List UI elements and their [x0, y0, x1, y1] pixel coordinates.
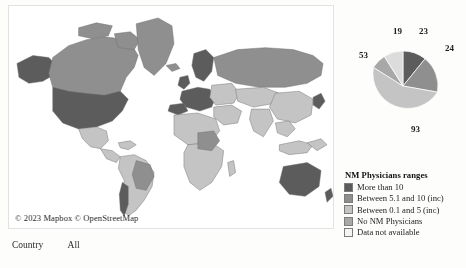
country-australia[interactable]: [279, 163, 321, 197]
region-sub-saharan-africa[interactable]: [184, 143, 224, 191]
pie-label-more-than-10: 23: [419, 26, 428, 36]
map-attribution: © 2023 Mapbox © OpenStreetMap: [15, 213, 138, 223]
pie-label-between-0-1-and-5: 93: [411, 124, 420, 134]
country-baffin-island[interactable]: [114, 32, 140, 50]
country-filter-label: Country: [12, 240, 43, 250]
country-india[interactable]: [250, 109, 274, 137]
legend-swatch-between-5-1-and-10: [344, 194, 353, 203]
pie-label-between-5-1-and-10: 24: [445, 43, 454, 53]
country-mexico[interactable]: [79, 127, 109, 149]
country-filter[interactable]: Country All: [12, 240, 80, 250]
pie-slices: [373, 51, 438, 108]
country-united-kingdom[interactable]: [178, 75, 190, 89]
country-russia[interactable]: [214, 48, 323, 88]
region-middle-east[interactable]: [214, 105, 242, 125]
map-landmasses: [17, 18, 333, 216]
country-canada-arctic[interactable]: [79, 23, 113, 39]
world-choropleth-map[interactable]: © 2023 Mapbox © OpenStreetMap: [8, 5, 334, 229]
country-madagascar[interactable]: [228, 161, 236, 177]
country-iceland[interactable]: [166, 63, 180, 71]
legend-swatch-no-nm-physicians: [344, 217, 353, 226]
country-filter-value[interactable]: All: [68, 240, 80, 250]
legend-label-no-nm-physicians: No NM Physicians: [357, 217, 422, 226]
legend-label-between-5-1-and-10: Between 5.1 and 10 (inc): [357, 194, 444, 203]
region-iberia[interactable]: [168, 103, 188, 115]
dashboard-page: © 2023 Mapbox © OpenStreetMap Country Al…: [0, 0, 466, 268]
region-caribbean[interactable]: [118, 141, 136, 150]
pie-label-data-not-available: 19: [393, 26, 402, 36]
country-china[interactable]: [269, 91, 313, 123]
map-legend: NM Physicians ranges More than 10 Betwee…: [344, 170, 464, 239]
legend-item-between-5-1-and-10[interactable]: Between 5.1 and 10 (inc): [344, 194, 464, 203]
map-canvas[interactable]: [9, 6, 333, 228]
legend-item-between-0-1-and-5[interactable]: Between 0.1 and 5 (inc): [344, 205, 464, 214]
region-eastern-europe[interactable]: [210, 83, 240, 105]
pie-label-no-nm-physicians: 53: [359, 50, 368, 60]
region-central-america[interactable]: [100, 149, 120, 163]
legend-swatch-data-not-available: [344, 228, 353, 237]
nm-physicians-pie-chart[interactable]: 19 23 24 53 93: [345, 28, 461, 140]
legend-swatch-between-0-1-and-5: [344, 205, 353, 214]
legend-label-more-than-10: More than 10: [357, 183, 403, 192]
legend-swatch-more-than-10: [344, 183, 353, 192]
legend-label-data-not-available: Data not available: [357, 228, 420, 237]
region-southeast-asia[interactable]: [275, 121, 295, 137]
pie-canvas[interactable]: [345, 28, 461, 140]
legend-item-more-than-10[interactable]: More than 10: [344, 183, 464, 192]
legend-title: NM Physicians ranges: [345, 170, 464, 180]
legend-label-between-0-1-and-5: Between 0.1 and 5 (inc): [357, 206, 439, 215]
country-new-zealand[interactable]: [325, 188, 333, 202]
region-scandinavia[interactable]: [192, 50, 214, 82]
legend-item-no-nm-physicians[interactable]: No NM Physicians: [344, 217, 464, 226]
country-japan[interactable]: [313, 93, 325, 109]
legend-item-data-not-available[interactable]: Data not available: [344, 228, 464, 237]
